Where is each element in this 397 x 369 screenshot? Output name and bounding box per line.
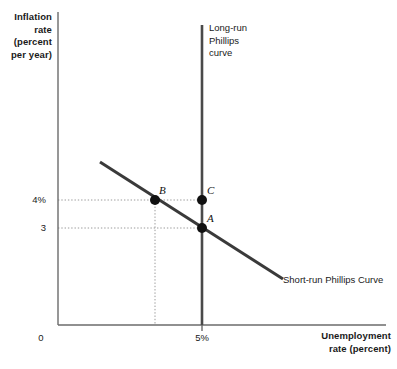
short-run-phillips-curve-label: Short-run Phillips Curve xyxy=(283,274,383,286)
data-point-b xyxy=(150,195,160,205)
short-run-phillips-curve xyxy=(100,162,283,279)
data-point-label-c: C xyxy=(207,184,214,196)
x-axis-tick-label-0: 0 xyxy=(34,332,48,343)
long-run-phillips-curve-label: Long-run Phillips curve xyxy=(209,22,247,60)
chart-canvas xyxy=(0,0,397,369)
x-axis-title: Unemployment rate (percent) xyxy=(255,330,391,355)
data-point-label-b: B xyxy=(159,184,166,196)
data-point-label-a: A xyxy=(207,212,214,224)
y-axis-title: Inflation rate (percent per year) xyxy=(0,11,52,61)
phillips-curve-figure: Inflation rate (percent per year) Unempl… xyxy=(0,0,397,369)
data-point-c xyxy=(197,195,207,205)
x-axis-tick-label-5pct: 5% xyxy=(188,332,216,343)
y-axis-tick-label-3: 3 xyxy=(8,222,46,233)
data-point-a xyxy=(197,223,207,233)
y-axis-tick-label-4pct: 4% xyxy=(8,194,46,205)
